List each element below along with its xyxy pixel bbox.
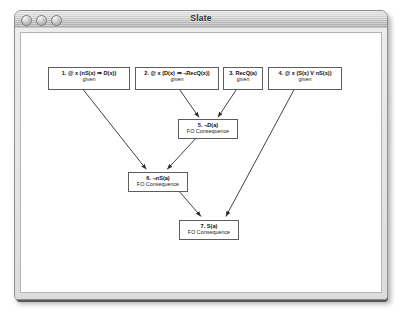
window-controls	[21, 15, 62, 26]
proof-node-4-justification: given	[272, 76, 338, 82]
proof-edge-4-to-7	[226, 89, 295, 217]
window-titlebar[interactable]: Slate	[15, 11, 387, 29]
window-body: 1. @ x (nS(x) ⇒ D(x))given2. @ x (D(x) ⇒…	[15, 28, 387, 299]
proof-node-7-justification: FO Consequence	[183, 229, 235, 235]
proof-node-6-justification: FO Consequence	[132, 181, 184, 187]
proof-node-2-justification: given	[139, 76, 215, 82]
minimize-button[interactable]	[36, 15, 47, 26]
proof-edge-1-to-6	[83, 89, 147, 169]
proof-node-4[interactable]: 4. @ x (S(x) V nS(x))given	[268, 67, 342, 90]
proof-node-5[interactable]: 5. ¬D(a)FO Consequence	[178, 119, 238, 139]
proof-edge-5-to-6	[167, 137, 197, 169]
proof-node-5-justification: FO Consequence	[182, 128, 234, 134]
screenshot-root: Slate 1. @ x (nS(x) ⇒ D(x))given2. @ x (…	[0, 0, 415, 320]
proof-node-1[interactable]: 1. @ x (nS(x) ⇒ D(x))given	[48, 67, 130, 90]
proof-node-3[interactable]: 3. RecQ(a)given	[223, 67, 263, 90]
slate-window: Slate 1. @ x (nS(x) ⇒ D(x))given2. @ x (…	[14, 10, 388, 300]
proof-node-7[interactable]: 7. S(a)FO Consequence	[179, 220, 239, 240]
proof-edges	[83, 89, 295, 217]
window-title: Slate	[15, 13, 387, 23]
close-button[interactable]	[21, 15, 32, 26]
proof-edge-6-to-7	[177, 189, 201, 216]
proof-canvas[interactable]: 1. @ x (nS(x) ⇒ D(x))given2. @ x (D(x) ⇒…	[20, 32, 382, 293]
proof-node-1-justification: given	[52, 76, 126, 82]
proof-edge-2-to-5	[179, 89, 199, 117]
proof-node-6[interactable]: 6. ¬nS(a)FO Consequence	[128, 172, 188, 192]
proof-edge-3-to-5	[218, 89, 237, 117]
proof-node-2[interactable]: 2. @ x (D(x) ⇒ ¬RecQ(x))given	[135, 67, 219, 90]
zoom-button[interactable]	[51, 15, 62, 26]
proof-node-3-justification: given	[227, 76, 259, 82]
